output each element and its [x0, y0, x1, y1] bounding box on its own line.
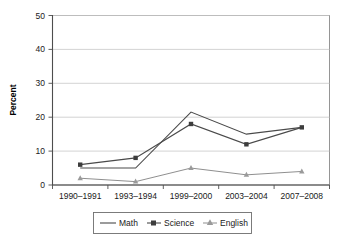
- y-axis-title: Percent: [8, 84, 18, 115]
- x-tick-label-3: 2003–2004: [225, 191, 268, 201]
- data-point-marker: [300, 125, 304, 129]
- y-tick-label-20: 20: [36, 112, 46, 122]
- y-tick-label-30: 30: [36, 78, 46, 88]
- data-point-marker: [78, 162, 82, 166]
- data-point-marker: [189, 122, 193, 126]
- x-tick-label-1: 1993–1994: [114, 191, 157, 201]
- y-tick-label-50: 50: [36, 11, 46, 21]
- line-chart: 50 40 30 20 10 0 Percent 1990–1991 1993–…: [0, 0, 344, 245]
- legend-label-science: Science: [164, 218, 195, 228]
- x-tick-label-0: 1990–1991: [59, 191, 102, 201]
- legend-label-math: Math: [119, 218, 138, 228]
- y-tick-label-0: 0: [40, 180, 45, 190]
- y-tick-label-40: 40: [36, 44, 46, 54]
- data-point-marker: [133, 156, 137, 160]
- chart-svg: 50 40 30 20 10 0 Percent 1990–1991 1993–…: [0, 0, 344, 245]
- legend-label-english: English: [220, 218, 248, 228]
- x-tick-label-2: 1999–2000: [170, 191, 213, 201]
- y-tick-label-10: 10: [36, 146, 46, 156]
- chart-background: [0, 0, 344, 245]
- data-point-marker: [244, 142, 248, 146]
- x-tick-label-4: 2007–2008: [281, 191, 324, 201]
- chart-legend: Math Science English: [94, 213, 252, 234]
- square-marker-icon: [151, 221, 156, 226]
